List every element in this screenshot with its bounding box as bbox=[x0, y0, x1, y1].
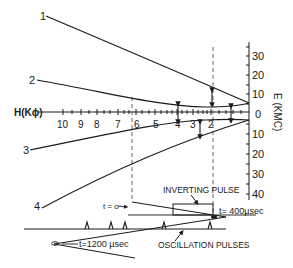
curve-label-2: 2 bbox=[29, 74, 35, 86]
e-tick-label: 30 bbox=[252, 168, 264, 180]
e-tick-label: 10 bbox=[252, 88, 264, 100]
oscillation-pulse bbox=[208, 222, 212, 229]
e-tick-label: 10 bbox=[252, 128, 264, 140]
inverting-pulse-pointer bbox=[191, 195, 197, 203]
t400-marker bbox=[211, 215, 217, 219]
curve-1 bbox=[46, 16, 249, 103]
t0-label: t = o bbox=[103, 202, 119, 211]
e-axis: 30 20 10 0 10 20 30 40 E (KMC) bbox=[246, 42, 283, 200]
e-axis-label: E (KMC) bbox=[272, 93, 283, 131]
e-tick-label: 20 bbox=[252, 148, 264, 160]
inverting-pulse-label: INVERTING PULSE bbox=[163, 185, 240, 195]
oscillation-pulses-label: OSCILLATION PULSES bbox=[158, 240, 250, 250]
curve-label-3: 3 bbox=[23, 144, 29, 156]
oscillation-pulse bbox=[85, 222, 89, 229]
t400-label: t= 400µsec bbox=[219, 206, 264, 216]
h-tick-label: 7 bbox=[115, 119, 121, 130]
oscillation-pulse bbox=[109, 222, 113, 229]
h-tick-label: 10 bbox=[57, 119, 69, 130]
curve-label-1: 1 bbox=[40, 10, 46, 22]
h-axis-label: H(Kϕ) bbox=[14, 107, 43, 118]
h-axis: H(Kϕ) 10 9 8 7 6 5 4 3 2 bbox=[14, 107, 249, 130]
h-tick-label: 8 bbox=[94, 119, 100, 130]
t1200-label: t=1200 µsec bbox=[79, 239, 129, 249]
e-tick-label: 30 bbox=[252, 50, 264, 62]
curve-2 bbox=[37, 80, 249, 107]
oscillation-pulse bbox=[123, 222, 127, 229]
e-tick-label: 40 bbox=[252, 188, 264, 200]
magnetic-resonance-diagram: 30 20 10 0 10 20 30 40 E (KMC) bbox=[0, 0, 293, 268]
e-tick-label: 0 bbox=[255, 108, 261, 120]
t0-pointer bbox=[118, 206, 126, 207]
oscillation-pulse bbox=[162, 222, 166, 229]
h-tick-label: 9 bbox=[78, 119, 84, 130]
curve-label-4: 4 bbox=[34, 200, 40, 212]
pulse-timing-diagram: t = o t= 400µsec t=1200 µsec INVERTING P… bbox=[24, 185, 264, 258]
e-tick-label: 20 bbox=[252, 69, 264, 81]
